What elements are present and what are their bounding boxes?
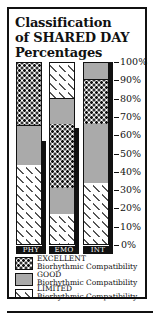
x-label-phy: PHY — [16, 246, 46, 254]
segment-limited — [17, 164, 41, 245]
segment-good — [84, 63, 108, 79]
segment-excellent — [84, 79, 108, 124]
bar-int — [83, 62, 109, 245]
segment-limited — [50, 213, 74, 245]
y-tick — [114, 135, 119, 136]
y-tick-label: 100% — [120, 57, 147, 67]
bar-shadow — [75, 128, 79, 253]
segment-good — [84, 123, 108, 183]
bar-shadow — [42, 141, 46, 253]
y-tick — [114, 62, 119, 63]
legend-item-limited: LIMITED Biorhythmic Compatibility — [37, 285, 137, 301]
y-tick — [114, 245, 119, 246]
y-tick-label: 50% — [120, 149, 141, 159]
segment-excellent — [17, 63, 41, 125]
y-tick — [114, 117, 119, 118]
x-label-emo: EMO — [49, 246, 79, 254]
x-label-int: INT — [83, 246, 113, 254]
bar-emo — [49, 62, 75, 245]
legend-sublabel: Biorhythmic Compatibility — [37, 293, 137, 301]
segment-good — [50, 98, 74, 125]
y-tick-label: 30% — [120, 185, 141, 195]
y-tick-label: 60% — [120, 130, 141, 140]
legend-swatch-good — [15, 273, 33, 286]
bar-phy — [16, 62, 42, 245]
y-tick-label: 70% — [120, 112, 141, 122]
segment-limited — [50, 63, 74, 98]
y-tick — [114, 208, 119, 209]
y-tick — [114, 99, 119, 100]
legend-item-excellent: EXCELLENT Biorhythmic Compatibility — [37, 255, 137, 271]
y-tick — [114, 172, 119, 173]
y-tick-label: 90% — [120, 75, 141, 85]
y-tick-label: 80% — [120, 94, 141, 104]
y-tick-label: 40% — [120, 167, 141, 177]
segment-good — [17, 125, 41, 164]
segment-good — [50, 187, 74, 214]
y-tick — [114, 80, 119, 81]
y-tick — [114, 227, 119, 228]
y-tick — [114, 190, 119, 191]
segment-excellent — [50, 123, 74, 188]
legend-swatch-excellent — [15, 257, 33, 270]
y-tick — [114, 154, 119, 155]
legend-swatch-limited — [15, 289, 33, 298]
y-tick-label: 10% — [120, 222, 141, 232]
y-tick-label: 20% — [120, 203, 141, 213]
bar-shadow — [109, 62, 113, 253]
segment-limited — [84, 182, 108, 245]
y-tick-label: 0% — [121, 240, 136, 250]
